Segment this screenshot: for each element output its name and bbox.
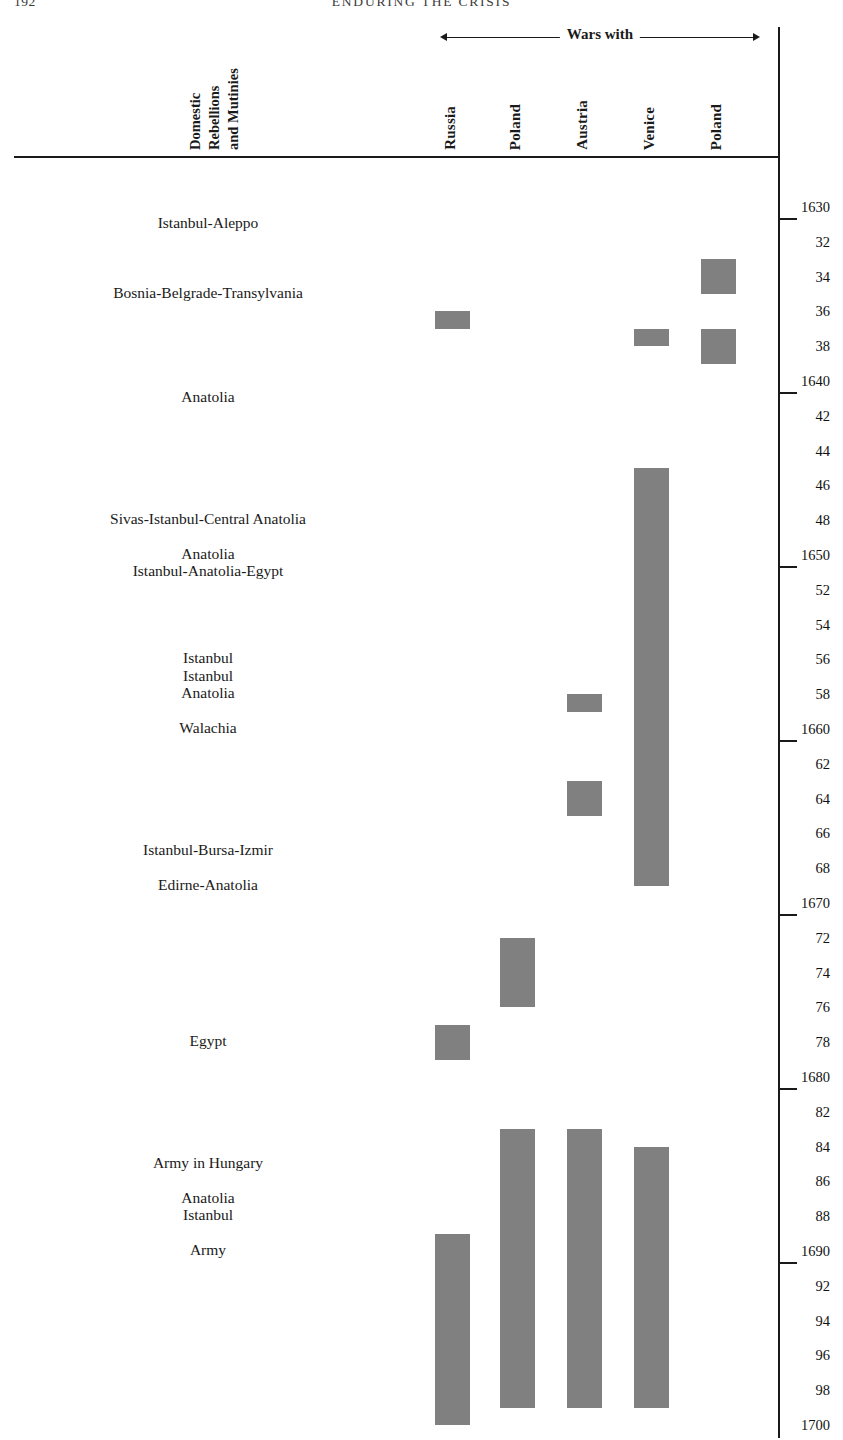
timeline-page: 192 ENDURING THE CRISIS Wars with Domest… [0,0,843,1440]
year-label-82: 82 [782,1104,840,1120]
year-label-48: 48 [782,512,840,528]
year-label-1650: 1650 [782,547,840,563]
event-label: Anatolia [0,388,416,406]
year-label-94: 94 [782,1313,840,1329]
decade-tick-1630 [780,218,797,220]
year-label-1640: 1640 [782,373,840,389]
year-label-84: 84 [782,1139,840,1155]
war-bar-austria [567,781,602,816]
event-label: Army in Hungary [0,1154,416,1172]
year-label-72: 72 [782,930,840,946]
event-label: Istanbul [0,649,416,667]
decade-tick-1690 [780,1262,797,1264]
year-label-1670: 1670 [782,895,840,911]
war-column-label: Austria [575,100,591,150]
event-label: Edirne-Anatolia [0,876,416,894]
year-label-78: 78 [782,1034,840,1050]
year-label-64: 64 [782,791,840,807]
event-label: Istanbul [0,667,416,685]
year-label-46: 46 [782,477,840,493]
war-column-label: Venice [642,107,658,150]
event-label: Bosnia-Belgrade-Transylvania [0,284,416,302]
year-label-66: 66 [782,825,840,841]
event-label: Egypt [0,1032,416,1050]
war-bar-venice [634,468,669,886]
war-bar-venice [634,1147,669,1408]
year-label-58: 58 [782,686,840,702]
header-rule [14,156,780,158]
war-bar-russia [435,311,470,328]
year-label-92: 92 [782,1278,840,1294]
year-label-98: 98 [782,1382,840,1398]
year-label-96: 96 [782,1347,840,1363]
year-label-76: 76 [782,999,840,1015]
war-column-label: Russia [443,106,459,150]
war-column-label: Poland [709,104,725,150]
year-label-36: 36 [782,303,840,319]
war-bar-austria [567,1129,602,1407]
event-label: Istanbul [0,1206,416,1224]
year-label-1660: 1660 [782,721,840,737]
year-label-68: 68 [782,860,840,876]
year-label-32: 32 [782,234,840,250]
year-label-38: 38 [782,338,840,354]
decade-tick-1650 [780,566,797,568]
war-bar-poland1 [500,1129,535,1407]
year-label-44: 44 [782,443,840,459]
war-column-label: Poland [508,104,524,150]
war-bar-venice [634,329,669,346]
year-label-74: 74 [782,965,840,981]
year-label-34: 34 [782,269,840,285]
year-label-1630: 1630 [782,199,840,215]
event-label: Istanbul-Anatolia-Egypt [0,562,416,580]
event-label: Istanbul-Aleppo [0,214,416,232]
event-label: Walachia [0,719,416,737]
decade-tick-1680 [780,1088,797,1090]
decade-tick-1640 [780,392,797,394]
year-axis-line [778,27,780,1438]
arrow-left-icon [440,33,447,41]
running-head-title: ENDURING THE CRISIS [0,0,843,10]
running-head: 192 ENDURING THE CRISIS [0,0,843,14]
arrow-right-icon [753,33,760,41]
decade-tick-1660 [780,740,797,742]
war-bar-poland2 [701,259,736,294]
year-label-42: 42 [782,408,840,424]
year-label-52: 52 [782,582,840,598]
year-label-88: 88 [782,1208,840,1224]
wars-with-label: Wars with [560,26,640,43]
event-label: Anatolia [0,545,416,563]
year-label-54: 54 [782,617,840,633]
decade-tick-1670 [780,914,797,916]
event-label: Army [0,1241,416,1259]
year-label-1680: 1680 [782,1069,840,1085]
war-bar-russia [435,1234,470,1425]
year-label-62: 62 [782,756,840,772]
war-bar-poland2 [701,329,736,364]
year-label-86: 86 [782,1173,840,1189]
year-label-1700: 1700 [782,1417,840,1433]
war-bar-russia [435,1025,470,1060]
event-label: Anatolia [0,1189,416,1207]
war-bar-poland1 [500,938,535,1008]
domestic-column-header: Domestic Rebellions and Mutinies [186,34,244,150]
war-bar-austria [567,694,602,711]
year-label-56: 56 [782,651,840,667]
year-label-1690: 1690 [782,1243,840,1259]
event-label: Sivas-Istanbul-Central Anatolia [0,510,416,528]
wars-with-span: Wars with [440,28,760,46]
event-label: Anatolia [0,684,416,702]
event-label: Istanbul-Bursa-Izmir [0,841,416,859]
